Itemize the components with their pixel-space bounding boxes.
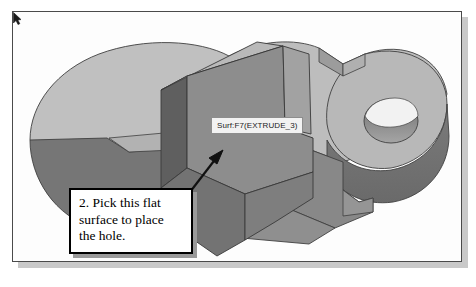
page-root: Surf:F7(EXTRUDE_3) 2. Pick this flat sur…: [0, 0, 476, 287]
surface-id-tooltip: Surf:F7(EXTRUDE_3): [211, 117, 303, 134]
through-hole: [364, 98, 418, 143]
mouse-pointer-icon: [13, 12, 22, 25]
callout-line-3: the hole.: [79, 228, 187, 245]
callout-line-1: 2. Pick this flat: [79, 195, 187, 212]
figure-frame: Surf:F7(EXTRUDE_3) 2. Pick this flat sur…: [12, 11, 462, 262]
cad-viewport[interactable]: Surf:F7(EXTRUDE_3) 2. Pick this flat sur…: [13, 12, 461, 261]
callout-line-2: surface to place: [79, 212, 187, 229]
instruction-callout: 2. Pick this flat surface to place the h…: [69, 188, 193, 254]
